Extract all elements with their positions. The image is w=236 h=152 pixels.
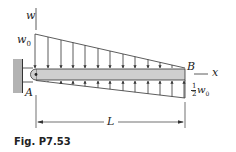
point-a-label: A — [25, 87, 33, 98]
w0-label: w0 — [17, 34, 31, 48]
pin-a — [35, 73, 38, 76]
bottom-distributed-load — [36, 80, 185, 98]
beam-ab — [31, 69, 186, 80]
half-denominator: 2 — [192, 91, 196, 98]
half-numerator: 1 — [192, 83, 196, 90]
top-distributed-load — [35, 34, 185, 68]
figure-caption: Fig. P7.53 — [14, 137, 71, 147]
point-b-label: B — [187, 61, 195, 72]
beam-diagram — [0, 0, 236, 152]
w-axis-label: w — [26, 10, 35, 21]
x-axis-label: x — [212, 67, 218, 78]
wall-support — [13, 59, 22, 93]
length-label: L — [107, 116, 114, 127]
half-w0-label: w0 — [197, 85, 209, 97]
